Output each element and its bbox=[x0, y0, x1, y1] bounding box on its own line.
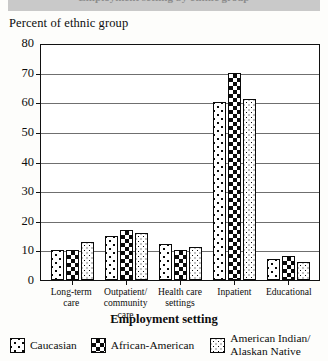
bar-3-3 bbox=[189, 247, 202, 280]
bar-2-3 bbox=[135, 233, 148, 280]
x-axis-title: Employment setting bbox=[0, 312, 328, 327]
bar-2-2 bbox=[120, 230, 133, 280]
bar-group-4 bbox=[207, 45, 261, 280]
y-axis-title: Percent of ethnic group bbox=[9, 16, 128, 31]
x-tick-mark-3 bbox=[180, 280, 181, 285]
bar-group-3 bbox=[153, 45, 207, 280]
x-axis-label-3: Health caresettings bbox=[153, 286, 207, 312]
legend-item-1: Caucasian bbox=[10, 338, 77, 353]
legend-label-line1: American Indian/ bbox=[230, 332, 310, 345]
x-axis-label-5: Educational bbox=[262, 286, 316, 312]
chart-legend: CaucasianAfrican-AmericanAmerican Indian… bbox=[0, 330, 328, 360]
x-tick-mark-5 bbox=[288, 280, 289, 285]
x-axis-label-line2: settings bbox=[153, 297, 207, 308]
legend-swatch-african-american bbox=[91, 338, 106, 353]
bar-5-3 bbox=[297, 262, 310, 280]
legend-item-2: African-American bbox=[91, 338, 194, 353]
bar-groups bbox=[41, 45, 319, 280]
x-tick-mark-2 bbox=[126, 280, 127, 285]
legend-label-2: African-American bbox=[111, 339, 194, 351]
x-tick-mark-4 bbox=[234, 280, 235, 285]
bar-1-3 bbox=[81, 242, 94, 281]
bar-5-2 bbox=[282, 256, 295, 280]
bar-5-1 bbox=[267, 259, 280, 280]
x-tick-mark-1 bbox=[72, 280, 73, 285]
legend-swatch-caucasian bbox=[10, 338, 25, 353]
y-tick-label-30: 30 bbox=[0, 185, 34, 198]
y-tick-label-60: 60 bbox=[0, 96, 34, 109]
x-axis-label-line1: Long-term bbox=[44, 286, 98, 297]
plot-area bbox=[40, 44, 320, 281]
bar-3-2 bbox=[174, 250, 187, 280]
figure-chart: Employment setting by ethnic group Perce… bbox=[0, 0, 328, 361]
y-tick-label-70: 70 bbox=[0, 67, 34, 80]
x-axis-label-1: Long-termcare bbox=[44, 286, 98, 312]
bar-group-1 bbox=[45, 45, 99, 280]
legend-label-1: Caucasian bbox=[30, 339, 77, 351]
legend-label-line2: Alaskan Native bbox=[230, 345, 310, 358]
y-tick-label-40: 40 bbox=[0, 156, 34, 169]
bar-3-1 bbox=[159, 244, 172, 280]
x-axis-tick-labels: Long-termcareOutpatient/community careHe… bbox=[40, 286, 320, 312]
cropped-title-text: Employment setting by ethnic group bbox=[8, 0, 320, 3]
bar-group-2 bbox=[99, 45, 153, 280]
x-axis-label-line1: Outpatient/ bbox=[98, 286, 152, 297]
y-tick-label-0: 0 bbox=[0, 274, 34, 287]
y-tick-label-50: 50 bbox=[0, 126, 34, 139]
bar-4-3 bbox=[243, 99, 256, 280]
legend-label-3: American Indian/Alaskan Native bbox=[230, 332, 310, 357]
x-axis-label-line1: Health care bbox=[153, 286, 207, 297]
y-tick-label-20: 20 bbox=[0, 215, 34, 228]
bar-1-1 bbox=[51, 250, 64, 280]
x-axis-label-line1: Inpatient bbox=[207, 286, 261, 297]
legend-item-3: American Indian/Alaskan Native bbox=[210, 332, 310, 357]
bar-4-2 bbox=[228, 73, 241, 280]
bar-group-5 bbox=[261, 45, 315, 280]
y-tick-label-10: 10 bbox=[0, 244, 34, 257]
bar-4-1 bbox=[213, 102, 226, 280]
bar-2-1 bbox=[105, 236, 118, 280]
legend-swatch-american-indian bbox=[210, 338, 225, 353]
x-axis-label-line2: care bbox=[44, 297, 98, 308]
x-axis-label-4: Inpatient bbox=[207, 286, 261, 312]
y-tick-label-80: 80 bbox=[0, 37, 34, 50]
bar-1-2 bbox=[66, 250, 79, 280]
cropped-title-banner: Employment setting by ethnic group bbox=[8, 0, 320, 11]
x-axis-label-2: Outpatient/community care bbox=[98, 286, 152, 312]
x-axis-label-line1: Educational bbox=[262, 286, 316, 297]
